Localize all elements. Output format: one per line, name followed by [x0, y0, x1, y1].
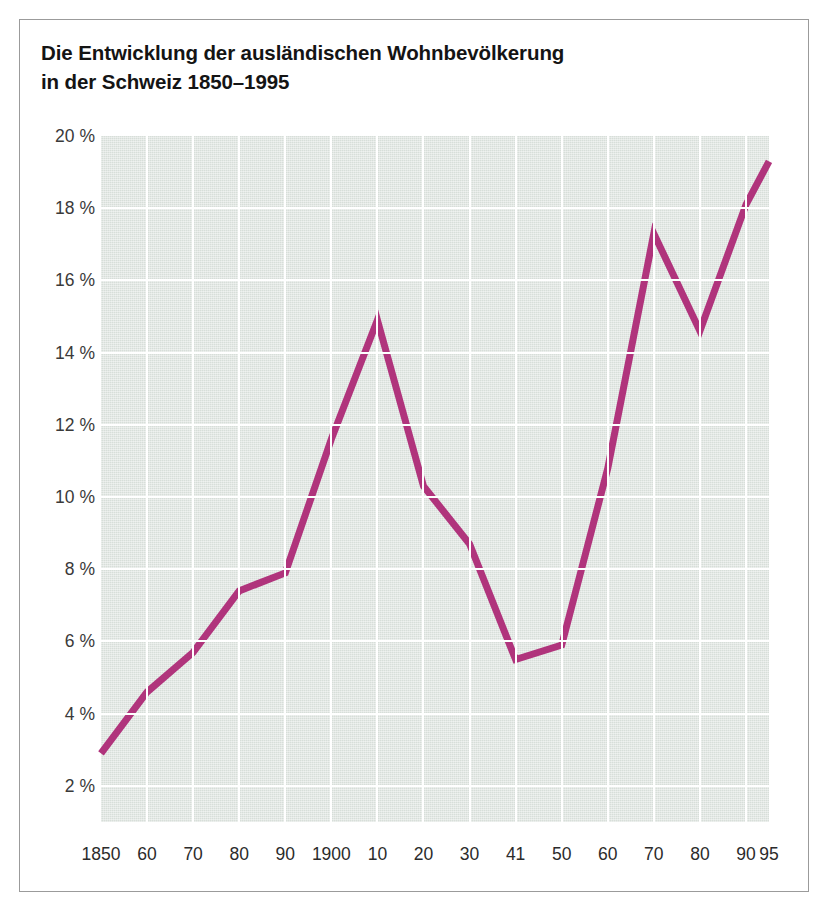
gridline-vertical	[422, 136, 424, 822]
gridline-vertical	[515, 136, 517, 822]
y-tick-label: 18 %	[21, 198, 95, 219]
gridline-vertical	[607, 136, 609, 822]
x-tick-label: 70	[644, 844, 663, 865]
y-tick-label: 20 %	[21, 126, 95, 147]
gridline-vertical	[284, 136, 286, 822]
gridline-vertical	[469, 136, 471, 822]
gridline-vertical	[699, 136, 701, 822]
gridline-vertical	[561, 136, 563, 822]
x-tick-label: 41	[506, 844, 525, 865]
x-tick-label: 90	[736, 844, 755, 865]
x-tick-label: 70	[183, 844, 202, 865]
gridline-horizontal	[101, 352, 769, 354]
y-tick-label: 2 %	[21, 775, 95, 796]
x-tick-label: 1850	[82, 844, 121, 865]
gridline-horizontal	[101, 568, 769, 570]
x-tick-label: 80	[229, 844, 248, 865]
x-tick-label: 60	[137, 844, 156, 865]
plot-area	[101, 136, 769, 822]
y-tick-label: 4 %	[21, 703, 95, 724]
gridline-vertical	[376, 136, 378, 822]
gridline-vertical	[653, 136, 655, 822]
gridline-horizontal	[101, 713, 769, 715]
x-tick-label: 1900	[312, 844, 351, 865]
y-tick-label: 6 %	[21, 631, 95, 652]
x-tick-label: 80	[690, 844, 709, 865]
y-tick-label: 14 %	[21, 342, 95, 363]
x-axis-labels: 185060708090190010203041506070809095	[101, 844, 769, 874]
x-tick-label: 50	[552, 844, 571, 865]
gridline-horizontal	[101, 279, 769, 281]
gridline-vertical	[146, 136, 148, 822]
x-tick-label: 95	[759, 844, 778, 865]
series-line	[101, 136, 769, 822]
chart-figure: Die Entwicklung der ausländischen Wohnbe…	[19, 19, 809, 892]
x-tick-label: 20	[414, 844, 433, 865]
y-tick-label: 10 %	[21, 487, 95, 508]
x-tick-label: 90	[276, 844, 295, 865]
y-axis-labels: 2 %4 %6 %8 %10 %12 %14 %16 %18 %20 %	[20, 136, 95, 822]
data-line-path	[101, 161, 769, 753]
gridline-horizontal	[101, 424, 769, 426]
x-tick-label: 10	[368, 844, 387, 865]
x-tick-label: 60	[598, 844, 617, 865]
x-tick-label: 30	[460, 844, 479, 865]
gridline-horizontal	[101, 785, 769, 787]
gridline-horizontal	[101, 640, 769, 642]
gridline-vertical	[745, 136, 747, 822]
y-tick-label: 12 %	[21, 414, 95, 435]
gridline-vertical	[192, 136, 194, 822]
gridline-horizontal	[101, 496, 769, 498]
y-tick-label: 8 %	[21, 559, 95, 580]
gridline-vertical	[330, 136, 332, 822]
gridline-horizontal	[101, 207, 769, 209]
y-tick-label: 16 %	[21, 270, 95, 291]
plot-wrapper: 2 %4 %6 %8 %10 %12 %14 %16 %18 %20 % 185…	[20, 20, 810, 893]
gridline-vertical	[238, 136, 240, 822]
